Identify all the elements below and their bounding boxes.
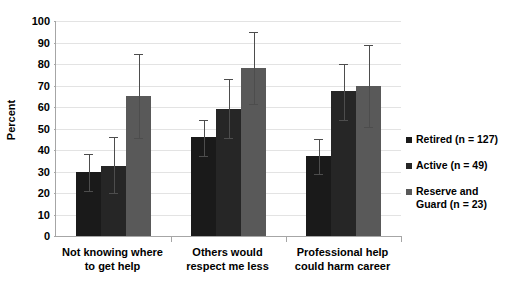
legend-swatch-icon [406, 137, 412, 143]
y-axis-tick-label: 0 [6, 231, 50, 242]
error-bar-cap-upper [339, 64, 348, 65]
y-axis-tick-label: 80 [6, 59, 50, 70]
x-axis-category-labels: Not knowing whereto get helpOthers would… [55, 245, 400, 289]
y-axis-tick-label: 10 [6, 209, 50, 220]
error-bar-line [204, 120, 205, 157]
error-bar-line [369, 45, 370, 128]
error-bar-cap-upper [224, 79, 233, 80]
error-bar-cap-upper [364, 45, 373, 46]
error-bar-cap-upper [109, 137, 118, 138]
error-bar-line [319, 139, 320, 173]
error-bar-line [114, 137, 115, 193]
bar-group [306, 21, 381, 236]
y-axis-tick-label: 70 [6, 80, 50, 91]
x-axis-category-label: Others wouldrespect me less [170, 245, 285, 273]
error-bar-cap-lower [109, 193, 118, 194]
error-bar-line [139, 54, 140, 138]
error-bar-cap-lower [364, 127, 373, 128]
error-bar-cap-upper [84, 154, 93, 155]
legend-item-label: Retired (n = 127) [416, 133, 498, 146]
legend-item-label: Reserve and Guard (n = 23) [416, 185, 487, 211]
x-axis-separator [401, 236, 402, 242]
error-bar-cap-lower [224, 138, 233, 139]
x-axis-separator [171, 236, 172, 242]
chart-legend: Retired (n = 127)Active (n = 49)Reserve … [406, 133, 514, 224]
y-axis-tick-labels: 0102030405060708090100 [0, 21, 50, 236]
legend-swatch-icon [406, 189, 412, 195]
plot-area [55, 21, 401, 237]
legend-swatch-icon [406, 163, 412, 169]
x-axis-separator [286, 236, 287, 242]
error-bar-cap-upper [134, 54, 143, 55]
error-bar-line [229, 79, 230, 138]
error-bar-cap-upper [249, 32, 258, 33]
error-bar-cap-lower [84, 191, 93, 192]
error-bar-cap-lower [249, 104, 258, 105]
error-bar-line [89, 154, 90, 191]
error-bar-cap-lower [199, 156, 208, 157]
y-axis-tick-label: 100 [6, 16, 50, 27]
y-axis-tick-label: 20 [6, 188, 50, 199]
error-bar-cap-lower [339, 120, 348, 121]
error-bar-line [254, 32, 255, 104]
error-bar-cap-lower [134, 138, 143, 139]
legend-item[interactable]: Retired (n = 127) [406, 133, 514, 146]
bar-group [76, 21, 151, 236]
y-axis-tick-label: 90 [6, 37, 50, 48]
legend-item[interactable]: Active (n = 49) [406, 159, 514, 172]
error-bar-cap-upper [314, 139, 323, 140]
y-axis-tick-label: 40 [6, 145, 50, 156]
error-bar-cap-lower [314, 174, 323, 175]
error-bar-line [344, 64, 345, 120]
error-bar-cap-upper [199, 120, 208, 121]
bar-group [191, 21, 266, 236]
bar-chart: Percent 0102030405060708090100 Not knowi… [0, 0, 514, 294]
legend-item-label: Active (n = 49) [416, 159, 488, 172]
x-axis-category-label: Not knowing whereto get help [55, 245, 170, 273]
y-axis-tick-label: 30 [6, 166, 50, 177]
y-axis-tick-label: 60 [6, 102, 50, 113]
y-axis-tick-label: 50 [6, 123, 50, 134]
x-axis-category-label: Professional helpcould harm career [285, 245, 400, 273]
legend-item[interactable]: Reserve and Guard (n = 23) [406, 185, 514, 211]
